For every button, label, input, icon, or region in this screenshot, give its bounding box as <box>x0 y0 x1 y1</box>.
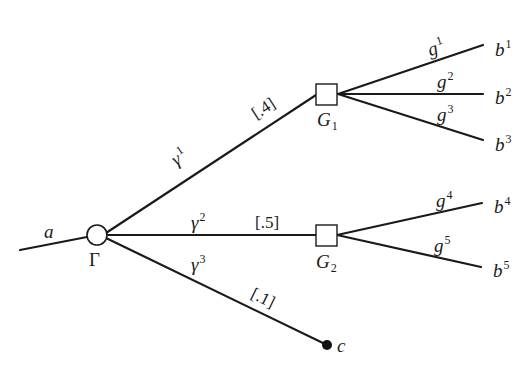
terminal-c-text: c <box>337 335 345 356</box>
label-a-text: a <box>44 221 54 242</box>
edge-gamma1 <box>106 95 316 233</box>
label-a: a <box>44 222 54 241</box>
label-outcome-b2: b2 <box>495 86 512 107</box>
g2-node-text: G <box>316 251 330 272</box>
label-terminal-c: c <box>337 336 345 355</box>
gamma2-sup: 2 <box>200 210 206 224</box>
b4-text: b <box>494 196 504 217</box>
label-outcome-b1: b1 <box>495 38 512 59</box>
b2-text: b <box>495 87 505 108</box>
label-g1-node: G1 <box>317 110 338 132</box>
b1-text: b <box>495 39 505 60</box>
edge-g3-sup: 3 <box>448 102 454 116</box>
b5-sup: 5 <box>504 258 510 272</box>
g1-node-sub: 1 <box>332 119 338 133</box>
label-edge-g2: g2 <box>437 70 454 91</box>
edge-g2-sup: 2 <box>448 69 454 83</box>
g1-node-text: G <box>317 109 331 130</box>
b5-text: b <box>493 260 503 281</box>
gamma3-sup: 3 <box>200 252 206 266</box>
label-gamma2: γ2 <box>191 211 206 232</box>
b1-sup: 1 <box>506 37 512 51</box>
label-outcome-b5: b5 <box>493 259 510 280</box>
label-chance-node: Γ <box>89 250 100 269</box>
edge-g4-text: g <box>436 190 446 211</box>
decision-node-g1 <box>316 84 337 105</box>
label-gamma3: γ3 <box>191 253 206 274</box>
g2-node-sub: 2 <box>331 261 337 275</box>
edge-g1 <box>338 45 483 94</box>
label-g2-node: G2 <box>316 252 337 274</box>
edge-g5 <box>337 235 481 267</box>
edge-g3 <box>338 94 483 140</box>
decision-node-g2 <box>316 225 337 246</box>
label-edge-g4: g4 <box>436 189 453 210</box>
gamma3-text: γ <box>191 254 199 275</box>
b4-sup: 4 <box>505 194 511 208</box>
edge-g4-sup: 4 <box>447 188 453 202</box>
edge-g5-sup: 5 <box>445 233 451 247</box>
edge-g3-text: g <box>437 104 447 125</box>
edge-gamma3 <box>106 238 325 344</box>
b2-sup: 2 <box>506 85 512 99</box>
b3-sup: 3 <box>506 132 512 146</box>
label-outcome-b3: b3 <box>495 133 512 154</box>
edge-g4 <box>337 203 482 235</box>
chance-node-text: Γ <box>89 249 100 270</box>
label-edge-g3: g3 <box>437 103 454 124</box>
edge-g2-text: g <box>437 71 447 92</box>
terminal-node-c <box>322 340 332 350</box>
chance-node-gamma <box>87 225 107 245</box>
b3-text: b <box>495 134 505 155</box>
decision-tree-diagram <box>0 0 532 374</box>
edge-a <box>20 237 87 250</box>
label-prob-gamma2: [.5] <box>255 214 279 231</box>
gamma2-text: γ <box>191 212 199 233</box>
label-edge-g5: g5 <box>434 234 451 255</box>
edge-g5-text: g <box>434 235 444 256</box>
prob-gamma2-text: [.5] <box>255 213 279 232</box>
label-outcome-b4: b4 <box>494 195 511 216</box>
